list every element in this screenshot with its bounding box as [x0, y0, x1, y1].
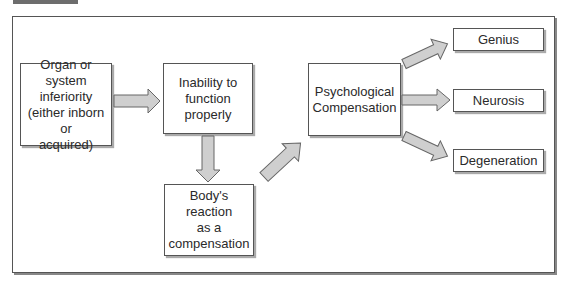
arrow-to-degeneration-icon	[399, 126, 452, 166]
arrow-to-genius-icon	[399, 34, 452, 74]
arrow-diagonal-up-icon	[256, 134, 309, 186]
arrow-down-icon	[196, 136, 220, 182]
arrow-to-neurosis-icon	[402, 89, 450, 111]
arrows-layer	[0, 0, 571, 289]
arrow-right-icon	[114, 89, 160, 113]
